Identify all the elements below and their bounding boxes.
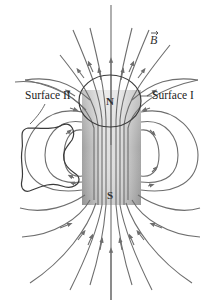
north-pole-label: N: [106, 95, 114, 107]
south-pole-label: S: [107, 189, 113, 201]
svg-text:B: B: [150, 33, 158, 47]
field-vector-label: B: [150, 31, 158, 47]
surface-1-label: Surface I: [152, 89, 194, 101]
surface-2-label: Surface II: [25, 89, 71, 101]
magnet-field-diagram: Surface II Surface I N S B: [0, 0, 215, 306]
